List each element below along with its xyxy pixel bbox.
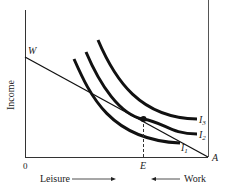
indifference-curve-i2 [86, 52, 197, 134]
indifference-curve-i1 [74, 59, 180, 143]
svg-text:I2: I2 [198, 129, 206, 142]
a-label: A [211, 152, 219, 163]
curve-label-i2: I2 [198, 129, 206, 142]
leisure-arrowhead-icon [111, 177, 116, 181]
work-label: Work [184, 173, 206, 184]
curve-label-i3: I3 [198, 114, 206, 127]
equilibrium-point [141, 116, 147, 122]
leisure-label: Leisure [40, 173, 71, 184]
curve-label-i1: I1 [180, 142, 188, 155]
w-label: W [28, 45, 38, 56]
indifference-curve-i3 [98, 40, 197, 119]
origin-label: 0 [23, 161, 28, 171]
svg-text:I1: I1 [180, 142, 188, 155]
e-label: E [139, 160, 146, 171]
svg-text:I3: I3 [198, 114, 206, 127]
labor-leisure-diagram: W Income 0 E A I3 I2 I1 Leisure Work [0, 0, 233, 196]
y-axis-label: Income [5, 79, 16, 110]
